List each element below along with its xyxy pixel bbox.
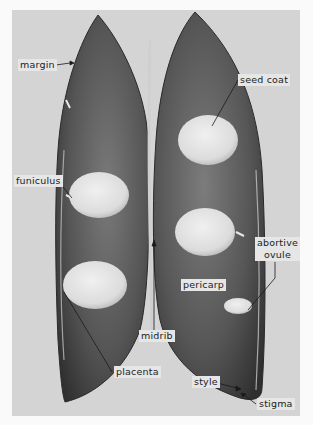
abortive-ovule	[224, 298, 252, 314]
label-placenta: placenta	[114, 366, 161, 378]
label-abortive-ovule-line1: abortive	[257, 237, 298, 249]
label-pericarp: pericarp	[181, 279, 226, 291]
seed-left-lower	[63, 261, 127, 309]
label-abortive-ovule: abortive ovule	[255, 237, 300, 261]
label-style: style	[192, 376, 220, 388]
label-funiculus: funiculus	[14, 175, 63, 187]
label-margin: margin	[18, 59, 57, 71]
midrib	[149, 40, 152, 330]
label-abortive-ovule-line2: ovule	[257, 249, 298, 261]
label-midrib: midrib	[139, 330, 175, 342]
seed-right-lower	[175, 208, 235, 256]
label-seed-coat: seed coat	[238, 74, 290, 86]
label-stigma: stigma	[257, 398, 295, 410]
seed-right-upper	[178, 115, 238, 165]
seed-left-upper	[69, 172, 129, 218]
